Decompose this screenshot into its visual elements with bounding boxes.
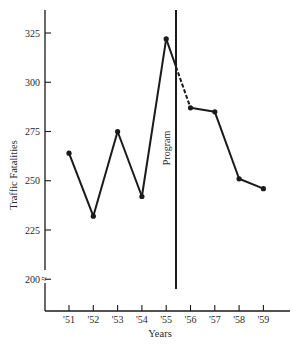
x-axis-title: Years [148, 328, 171, 339]
axis-break-icon: ≈ [41, 273, 47, 284]
data-point [188, 105, 193, 110]
series-segment [239, 179, 263, 189]
data-point [91, 214, 96, 219]
data-point [66, 151, 71, 156]
x-tick-label: '52 [87, 314, 99, 325]
y-axis-title: Traffic Fatalities [8, 140, 19, 210]
y-tick-label: 225 [25, 225, 40, 236]
x-tick-label: '51 [63, 314, 75, 325]
data-point [139, 194, 144, 199]
line-chart: ≈200225250275300325 '51'52'53'54'55'56'5… [0, 0, 296, 346]
x-tick-label: '56 [185, 314, 197, 325]
series-segment [69, 153, 93, 216]
data-point [115, 129, 120, 134]
y-axis: ≈200225250275300325 [25, 10, 51, 311]
series-segment-dashed [176, 67, 191, 108]
x-tick-label: '59 [257, 314, 269, 325]
y-tick-label: 325 [25, 28, 40, 39]
data-point [212, 109, 217, 114]
x-tick-label: '58 [233, 314, 245, 325]
y-tick-label: 250 [25, 175, 40, 186]
series-segment [191, 108, 215, 112]
series-segment [215, 112, 239, 179]
x-tick-label: '53 [112, 314, 124, 325]
x-tick-label: '55 [160, 314, 172, 325]
x-axis: '51'52'53'54'55'56'57'58'59 [45, 305, 290, 325]
series-segment [93, 132, 117, 217]
data-point [261, 186, 266, 191]
program-label: Program [161, 131, 172, 166]
series-segment [142, 39, 166, 197]
x-tick-label: '57 [209, 314, 221, 325]
series-traffic-fatalities [66, 36, 266, 219]
data-point [237, 176, 242, 181]
data-point [164, 36, 169, 41]
x-tick-label: '54 [136, 314, 148, 325]
y-tick-label: 300 [25, 77, 40, 88]
series-segment [166, 39, 176, 67]
y-tick-label: 275 [25, 126, 40, 137]
y-tick-label: 200 [25, 274, 40, 285]
series-segment [118, 132, 142, 197]
